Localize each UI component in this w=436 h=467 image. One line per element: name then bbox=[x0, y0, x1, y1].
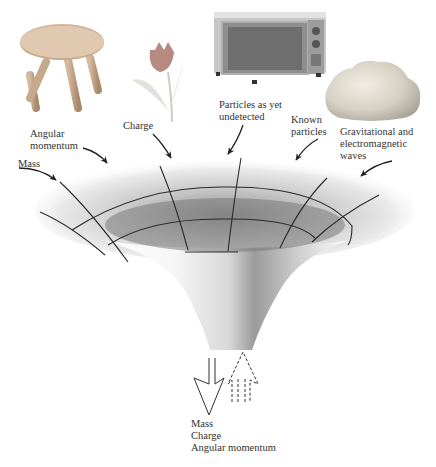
label-particles-undetected: Particles as yet undetected bbox=[219, 99, 282, 123]
black-hole-funnel bbox=[30, 142, 420, 350]
tulip-image bbox=[132, 42, 184, 122]
label-output-properties: Mass Charge Angular momentum bbox=[191, 418, 276, 454]
rock-image bbox=[325, 61, 420, 121]
outgoing-arrow-solid bbox=[194, 358, 224, 415]
label-charge: Charge bbox=[123, 120, 153, 132]
outgoing-arrow-dashed bbox=[228, 352, 258, 402]
stool-image bbox=[20, 24, 104, 108]
label-angular-momentum: Angular momentum bbox=[30, 128, 78, 152]
label-gravitational-waves: Gravitational and electromagnetic waves bbox=[340, 126, 413, 162]
label-mass: Mass bbox=[18, 158, 40, 170]
label-known-particles: Known particles bbox=[291, 114, 327, 138]
black-hole-diagram bbox=[0, 0, 436, 467]
microwave-image bbox=[214, 12, 326, 84]
